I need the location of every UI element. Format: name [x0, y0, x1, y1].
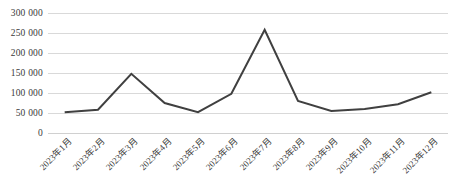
y-axis-tick-labels: 050 000100 000150 000200 000250 000300 0…: [0, 0, 46, 176]
line-chart: 050 000100 000150 000200 000250 000300 0…: [0, 0, 453, 176]
y-axis-tick-label: 300 000: [11, 8, 43, 18]
y-axis-tick-label: 100 000: [11, 88, 43, 98]
y-axis-tick-label: 50 000: [16, 108, 43, 118]
x-axis-tick-labels: 2023年1月2023年2月2023年3月2023年4月2023年5月2023年…: [48, 133, 448, 176]
plot-area: [48, 13, 448, 133]
y-axis-tick-label: 150 000: [11, 68, 43, 78]
series-line: [65, 30, 432, 112]
series-line-layer: [48, 13, 448, 133]
y-axis-tick-label: 200 000: [11, 48, 43, 58]
y-axis-tick-label: 250 000: [11, 28, 43, 38]
y-axis-tick-label: 0: [38, 128, 43, 138]
